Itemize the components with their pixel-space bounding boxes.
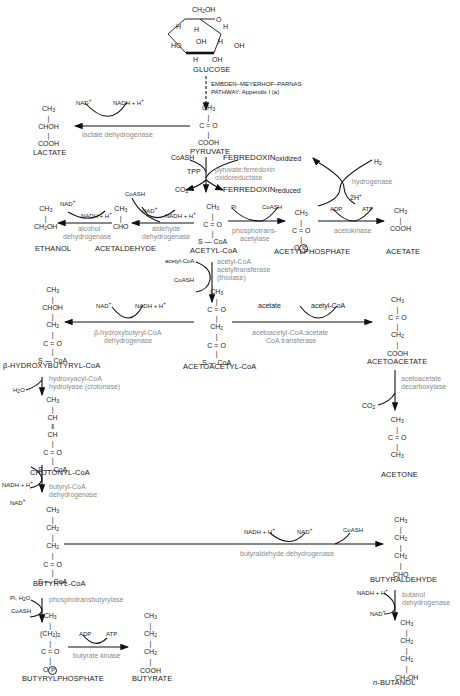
pyruvate-structure: CH3|C = O|COOH <box>198 104 219 148</box>
adh-nad: NAD+ <box>60 198 75 208</box>
enzyme-thiolase-2: acetyltransferase <box>217 266 270 274</box>
acetone-structure: CH3|C = O|CH3 <box>388 416 406 461</box>
enzyme-bdh-1: butanol <box>402 591 425 599</box>
butyrate-structure: CH3|CH2|CH2|COOH <box>140 612 161 675</box>
butyryl-coa-structure: CH3|CH2|CH2|C = O|S — CoA <box>38 506 67 586</box>
glucose-h1: H <box>176 23 181 32</box>
lactate-structure: CH3|CHOH|COOH <box>38 105 59 149</box>
bdh-nadh: NADH + H+ <box>357 587 388 597</box>
ctf-acetate: acetate <box>258 302 281 310</box>
glucose-ho: HO <box>171 42 182 51</box>
emp-pathway-line1: EMBDEN–MEYERHOF–PARNAS <box>211 80 302 88</box>
butyraldehyde-label: BUTYRALDEHYDE <box>370 576 437 584</box>
lactate-nad: NAD+ <box>76 97 91 107</box>
emp-pathway-line2: PATHWAY: Appendix I (a) <box>211 88 279 96</box>
enzyme-acetokinase: acetokinase <box>334 227 371 235</box>
glucose-h2: H <box>194 26 199 35</box>
lactate-nadh: NADH + H+ <box>113 97 144 107</box>
lactate-label: LACTATE <box>33 149 66 157</box>
n-butanol-structure: CH3|CH2|CH2|CH2OH <box>395 619 418 683</box>
adc-co2: CO2 <box>362 402 375 411</box>
glucose-label: GLUCOSE <box>193 66 230 74</box>
butyrylphosphate-label: BUTYRYLPHOSPHATE <box>22 675 104 683</box>
acetoacetate-label: ACETOACETATE <box>367 358 427 366</box>
enzyme-hydrogenase: hydrogenase <box>352 178 392 186</box>
glucose-ch2oh: CH2OH <box>192 6 215 16</box>
enzyme-ptb: phosphotransbutyrylase <box>49 596 123 604</box>
two-h-plus: 2H+ <box>350 192 362 202</box>
ak-adp: ADP <box>330 205 342 213</box>
acetyl-coa-structure: CH3|C = O|S — CoA <box>198 203 227 247</box>
bdh-nad: NAD+ <box>370 608 385 618</box>
enzyme-aldehyde-dh-2: dehydrogenase <box>142 233 190 241</box>
pta-pi: Pi <box>231 203 236 211</box>
butyrylphosphate-structure: CH3|(CH2)2|C = O|OP <box>40 612 60 675</box>
bcd-nadh: NADH + H+ <box>2 479 33 489</box>
glucose-h5: H <box>193 56 198 65</box>
bad-coash: CoASH <box>343 526 363 534</box>
adh-nadh: NADH + H+ <box>81 210 112 220</box>
enzyme-crt-2: hydrolyase (crotonase) <box>49 383 120 391</box>
butyrate-label: BUTYRATE <box>132 675 172 683</box>
enzyme-ctf-2: CoA transferase <box>266 337 316 345</box>
enzyme-pfor-1: pyruvate:ferredoxin <box>215 166 275 174</box>
crt-h2o: H2O <box>13 386 25 395</box>
glucose-h3: H <box>223 23 228 32</box>
butyryl-coa-label: BUTYRYL-CoA <box>33 580 86 588</box>
ethanol-structure: CH3|CH2OH <box>34 205 57 233</box>
enzyme-crt-1: hydroxyacyl-CoA <box>49 375 102 383</box>
thl-acetyl-coa: acetyl-CoA <box>165 257 194 265</box>
enzyme-alcohol-dh-1: alcohol <box>78 225 100 233</box>
glucose-h4: H <box>218 38 223 47</box>
enzyme-pfor-2: oxidoreductase <box>215 174 262 182</box>
ald-nadh: NADH + H+ <box>165 210 196 220</box>
ferredoxin-reduced: FERREDOXINreduced <box>223 186 301 195</box>
acetaldehyde-label: ACETALDEHYDE <box>95 245 156 253</box>
ethanol-label: ETHANOL <box>35 245 71 253</box>
glucose-oh2: OH <box>234 42 245 51</box>
thl-coash: CoASH <box>174 276 194 284</box>
bad-nadh: NADH + H+ <box>244 526 275 536</box>
glucose-oh3: OH <box>212 56 223 65</box>
buk-adp: ADP <box>79 630 91 638</box>
acetyl-coa-label: ACETYL-CoA <box>190 247 237 255</box>
hbd-nadh: NADH + H+ <box>135 300 166 310</box>
b-hydroxybutyryl-coa-structure: CH3|CHOH|CH2|C = O|S — CoA <box>38 286 67 365</box>
enzyme-adc-1: acetoacetate <box>401 375 441 383</box>
enzyme-thiolase-3: (thiolase) <box>217 274 246 282</box>
acetylphosphate-label: ACETYLPHOSPHATE <box>274 248 350 256</box>
ald-coash: CoASH <box>125 190 145 198</box>
enzyme-pta-2: acetylase <box>240 235 270 243</box>
enzyme-pta-1: phosphotrans- <box>232 227 277 235</box>
enzyme-buk: butyrate kinase <box>73 652 120 660</box>
hbd-nad: NAD+ <box>96 300 111 310</box>
ak-atp: ATP <box>362 205 373 213</box>
glucose-oh1: OH <box>196 38 207 47</box>
b-hydroxybutyryl-coa-label: β-HYDROXYBUTYRYL-CoA <box>3 362 100 370</box>
acetone-label: ACETONE <box>381 471 418 479</box>
n-butanol-label: n-BUTANOL <box>373 679 415 687</box>
ctf-acetyl-coa: acetyl-CoA <box>311 302 345 310</box>
enzyme-bcd-2: dehydrogenase <box>49 491 97 499</box>
ferredoxin-oxidized: FERREDOXINoxidized <box>223 154 301 163</box>
glucose-ring-o: O <box>216 16 221 25</box>
acetate-structure: CH3|COOH <box>390 207 411 234</box>
enzyme-ctf-1: acetoacetyl-CoA:acetate <box>252 329 328 337</box>
bcd-nad: NAD+ <box>10 497 25 507</box>
pfor-tpp: TPP <box>187 168 201 176</box>
enzyme-hbd-1: β-hydroxybutyryl-CoA <box>94 329 161 337</box>
acetate-label: ACETATE <box>386 248 420 256</box>
pfor-coash: CoASH <box>171 154 194 162</box>
ptb-pi-h2o: Pi, H2O <box>10 594 30 603</box>
enzyme-aldehyde-dh-1: aldehyde <box>152 225 180 233</box>
ald-nad: NAD+ <box>142 205 157 215</box>
butyraldehyde-structure: CH3|CH2|CH2|CHO <box>393 516 409 579</box>
acetaldehyde-structure: CH3|CHO <box>113 205 129 232</box>
enzyme-thiolase-1: acetyl-CoA <box>217 258 251 266</box>
acetoacetyl-coa-structure: CH3|C = O|CH2|C = O|S — CoA <box>202 288 231 367</box>
bad-nad: NAD+ <box>297 526 312 536</box>
buk-atp: ATP <box>106 630 117 638</box>
enzyme-bcd-1: butyryl-CoA <box>49 483 86 491</box>
crotonyl-coa-label: CROTONYL-CoA <box>30 469 90 477</box>
enzyme-bad: butyraldehyde dehydrogenase <box>240 550 334 558</box>
